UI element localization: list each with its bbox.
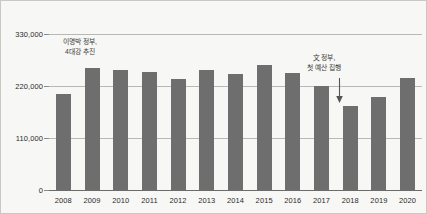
bar-slot-2009: 2009 <box>78 34 107 190</box>
annotation-lee-myung-bak-line2: 4대강 추진 <box>63 47 97 57</box>
bar-slot-2008: 2008 <box>49 34 78 190</box>
bar-2015[interactable] <box>257 65 272 190</box>
ytick-label-0: 0 <box>39 186 43 195</box>
down-arrow-icon <box>335 78 344 104</box>
annotation-moon-jae-in-line1: 文 정부, <box>307 53 341 63</box>
bar-2008[interactable] <box>56 94 71 190</box>
annotation-moon-jae-in: 文 정부, 첫 예산 집행 <box>307 53 341 73</box>
bar-2011[interactable] <box>142 72 157 190</box>
bar-slot-2013: 2013 <box>192 34 221 190</box>
ytick-label-330000: 330,000 <box>15 30 43 39</box>
annotation-moon-jae-in-line2: 첫 예산 집행 <box>307 63 341 73</box>
bar-chart-figure: 330,000 220,000 110,000 0 2008 2009 <box>0 0 427 214</box>
ytick-mark-0 <box>44 190 49 191</box>
bar-slot-2012: 2012 <box>164 34 193 190</box>
bar-2016[interactable] <box>285 73 300 190</box>
bar-slot-2011: 2011 <box>135 34 164 190</box>
bar-slot-2010: 2010 <box>106 34 135 190</box>
xtick-label-2012: 2012 <box>170 196 187 205</box>
xtick-label-2011: 2011 <box>141 196 158 205</box>
bar-2012[interactable] <box>171 79 186 190</box>
bar-2013[interactable] <box>199 70 214 190</box>
bar-slot-2014: 2014 <box>221 34 250 190</box>
xtick-label-2015: 2015 <box>256 196 273 205</box>
xtick-label-2009: 2009 <box>83 196 100 205</box>
bar-2017[interactable] <box>314 86 329 190</box>
xtick-label-2020: 2020 <box>399 196 416 205</box>
bar-2018[interactable] <box>343 106 358 190</box>
bar-2010[interactable] <box>113 70 128 190</box>
xtick-label-2017: 2017 <box>313 196 330 205</box>
axis-baseline-0: 0 <box>49 190 422 191</box>
bar-2019[interactable] <box>371 97 386 190</box>
annotation-lee-myung-bak: 이명박 정부, 4대강 추진 <box>63 37 97 57</box>
xtick-label-2014: 2014 <box>227 196 244 205</box>
xtick-label-2008: 2008 <box>55 196 72 205</box>
plot-area: 330,000 220,000 110,000 0 2008 2009 <box>49 34 422 190</box>
bar-2020[interactable] <box>400 78 415 190</box>
xtick-label-2013: 2013 <box>198 196 215 205</box>
bar-slot-2020: 2020 <box>393 34 422 190</box>
bar-series: 2008 2009 2010 2011 2012 2013 <box>49 34 422 190</box>
annotation-lee-myung-bak-line1: 이명박 정부, <box>63 37 97 47</box>
xtick-label-2019: 2019 <box>370 196 387 205</box>
xtick-label-2016: 2016 <box>284 196 301 205</box>
bar-slot-2016: 2016 <box>279 34 308 190</box>
xtick-label-2018: 2018 <box>342 196 359 205</box>
bar-2009[interactable] <box>85 68 100 190</box>
bar-2014[interactable] <box>228 74 243 190</box>
ytick-label-220000: 220,000 <box>15 82 43 91</box>
ytick-label-110000: 110,000 <box>16 134 43 143</box>
bar-slot-2015: 2015 <box>250 34 279 190</box>
bar-slot-2019: 2019 <box>365 34 394 190</box>
xtick-label-2010: 2010 <box>112 196 129 205</box>
